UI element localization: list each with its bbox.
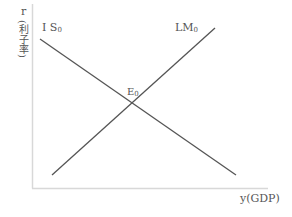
lm-curve-label: LM0 [175,22,198,34]
y-axis-label: r [21,6,26,17]
equilibrium-label: E0 [127,87,139,98]
lm-curve [52,28,215,175]
is-label-text: I S [42,21,57,34]
y-axis-sublabel: (利子率) [17,20,27,58]
equilibrium-label-subscript: 0 [134,90,138,98]
is-curve-label: I S0 [42,22,62,34]
lm-label-text: LM [175,21,194,34]
is-curve [40,39,236,175]
lm-label-subscript: 0 [194,26,198,34]
is-lm-diagram: r (利子率) I S0 LM0 E0 y(GDP) [0,0,292,217]
is-label-subscript: 0 [57,26,61,34]
x-axis-label: y(GDP) [240,193,280,204]
